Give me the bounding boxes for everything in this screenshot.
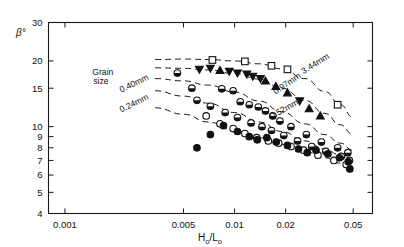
data-point-0.52mm (318, 139, 325, 146)
data-point-0.24mm-filled (325, 151, 332, 158)
scatter-chart: 45678910152030 0.0010.0050.010.020.05 3.… (0, 0, 404, 247)
data-point-0.24mm-filled (336, 154, 343, 161)
data-point-0.40mm (207, 103, 214, 110)
data-point-0.24mm-filled (284, 142, 291, 149)
data-point-0.52mm (237, 98, 244, 105)
y-tick-label: 20 (32, 55, 43, 66)
y-tick-label: 5 (37, 187, 42, 198)
data-point-0.24mm-filled (220, 122, 227, 129)
data-point-0.40mm (222, 109, 229, 116)
y-axis-title: β° (15, 27, 26, 38)
data-point-0.24mm-filled (345, 159, 352, 166)
grain-size-note-2: size (93, 76, 109, 86)
plot-background (0, 0, 404, 247)
data-point-0.52mm (174, 70, 181, 77)
data-point-0.24mm-filled (304, 149, 311, 156)
y-tick-label: 8 (37, 142, 42, 153)
data-point-3.44mm (242, 58, 249, 65)
data-point-0.40mm (268, 127, 275, 134)
y-tick-label: 9 (37, 131, 42, 142)
data-point-0.52mm (218, 86, 225, 93)
figure-container: 45678910152030 0.0010.0050.010.020.05 3.… (0, 0, 404, 247)
data-point-0.24mm-filled (246, 133, 253, 140)
data-point-3.44mm (284, 66, 291, 73)
data-point-0.24mm-filled (313, 147, 320, 154)
x-tick-label: 0.005 (172, 219, 196, 230)
data-point-0.24mm-filled (207, 131, 214, 138)
x-tick-label: 0.02 (276, 219, 295, 230)
data-point-0.40mm (248, 120, 255, 127)
data-point-0.24mm-filled (264, 134, 271, 141)
data-point-0.24mm-filled (273, 139, 280, 146)
x-tick-label: 0.01 (225, 219, 244, 230)
data-point-0.40mm (194, 97, 201, 104)
y-tick-label: 10 (32, 121, 43, 132)
data-point-0.40mm (280, 132, 287, 139)
data-point-0.24mm (203, 113, 210, 120)
y-tick-label: 6 (37, 169, 42, 180)
y-tick-label: 7 (37, 155, 42, 166)
data-point-0.24mm-filled (347, 166, 354, 173)
data-point-0.52mm (246, 101, 253, 108)
data-point-0.52mm (230, 87, 237, 94)
y-tick-label: 15 (32, 83, 43, 94)
data-point-0.52mm (277, 118, 284, 125)
data-point-0.40mm (294, 138, 301, 145)
data-point-3.44mm (209, 57, 216, 64)
data-point-0.24mm-filled (194, 144, 201, 151)
data-point-3.44mm (334, 101, 341, 108)
data-point-0.40mm (259, 123, 266, 130)
data-point-0.24mm-filled (254, 137, 261, 144)
x-tick-label: 0.05 (344, 219, 363, 230)
data-point-0.24mm-filled (295, 146, 302, 153)
data-point-0.40mm (234, 114, 241, 121)
data-point-3.44mm (268, 62, 275, 69)
data-point-0.52mm (334, 144, 341, 151)
data-point-0.52mm (255, 104, 262, 111)
y-tick-label: 4 (37, 208, 42, 219)
data-point-0.52mm (288, 123, 295, 130)
data-point-0.52mm (189, 85, 196, 92)
data-point-0.52mm (345, 149, 352, 156)
data-point-0.52mm (303, 131, 310, 138)
x-tick-label: 0.001 (53, 219, 77, 230)
y-tick-label: 30 (32, 17, 43, 28)
data-point-0.24mm-filled (234, 128, 241, 135)
